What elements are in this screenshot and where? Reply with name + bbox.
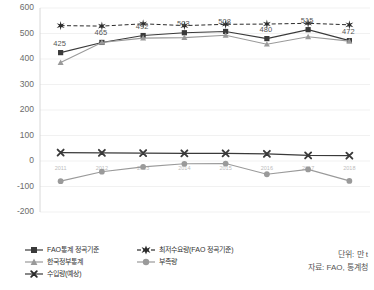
y-tick-label: 400 — [20, 53, 34, 63]
data-value-label: 465 — [95, 28, 108, 37]
y-tick-label: 600 — [20, 2, 34, 12]
legend-label-korea-gov: 한국정부통계 — [47, 257, 83, 267]
chart-page: 6005004003002001000-100-200 201120122013… — [0, 0, 374, 290]
legend-item-korea-gov[interactable]: 한국정부통계 — [24, 256, 136, 268]
y-axis-tick-labels: 6005004003002001000-100-200 — [17, 2, 34, 216]
y-tick-label: 200 — [20, 104, 34, 114]
x-tick-label: 2011 — [55, 165, 67, 171]
y-tick-label: 300 — [20, 79, 34, 89]
y-tick-label: -100 — [17, 181, 34, 191]
data-point-fao-milled — [182, 30, 187, 35]
y-tick-label: 0 — [29, 155, 34, 165]
legend-item-shortage[interactable]: 부족량 — [136, 256, 284, 268]
data-point-fao-milled — [58, 50, 63, 55]
legend-label-shortage: 부족량 — [159, 257, 177, 267]
data-point-shortage — [58, 178, 64, 184]
chart-notes: 단위: 만 t 자료: FAO, 통계청 — [308, 248, 368, 274]
legend-item-min-demand[interactable]: 최저수요량(FAO 정곡기준) — [136, 244, 284, 256]
data-value-label: 503 — [177, 19, 190, 28]
data-series-group — [57, 19, 354, 184]
legend-key-square-icon — [24, 245, 44, 255]
series-line-korea-gov — [61, 35, 350, 62]
legend-item-imports[interactable]: 수입량(예상) — [24, 268, 136, 280]
data-value-label: 515 — [301, 16, 314, 25]
data-point-shortage — [99, 169, 105, 175]
data-point-shortage — [264, 171, 270, 177]
data-point-shortage — [140, 164, 146, 170]
series-imports — [58, 150, 353, 159]
legend-key-star-icon — [136, 245, 156, 255]
source-note: 자료: FAO, 통계청 — [308, 261, 368, 274]
data-value-label: 425 — [53, 39, 66, 48]
data-point-shortage — [181, 161, 187, 167]
data-point-korea-gov — [58, 60, 64, 65]
x-tick-label: 2016 — [261, 165, 273, 171]
data-value-label: 492 — [136, 22, 149, 31]
y-tick-label: 500 — [20, 28, 34, 38]
legend-label-fao-milled: FAO통계 정곡기준 — [47, 245, 99, 255]
y-tick-label: -200 — [17, 206, 34, 216]
legend-key-triangle-icon — [24, 257, 44, 267]
chart-legend: FAO통계 정곡기준 최저수요량(FAO 정곡기준) 한국정부통계 부족량 — [24, 244, 284, 280]
data-point-shortage — [223, 161, 229, 167]
data-point-shortage — [346, 178, 352, 184]
y-tick-label: 100 — [20, 130, 34, 140]
x-tick-label: 2018 — [343, 165, 355, 171]
line-chart-svg: 6005004003002001000-100-200 201120122013… — [0, 0, 374, 240]
unit-note: 단위: 만 t — [308, 248, 368, 261]
data-value-label: 480 — [260, 25, 273, 34]
data-value-label: 472 — [342, 27, 355, 36]
legend-key-circle-icon — [136, 257, 156, 267]
legend-label-min-demand: 최저수요량(FAO 정곡기준) — [159, 245, 234, 255]
legend-label-imports: 수입량(예상) — [47, 269, 82, 279]
data-value-label: 508 — [218, 17, 231, 26]
legend-item-fao-milled[interactable]: FAO통계 정곡기준 — [24, 244, 136, 256]
data-point-shortage — [305, 167, 311, 173]
chart-plot-area: 6005004003002001000-100-200 201120122013… — [0, 0, 374, 240]
data-point-fao-milled — [264, 36, 269, 41]
legend-key-x-icon — [24, 269, 44, 279]
